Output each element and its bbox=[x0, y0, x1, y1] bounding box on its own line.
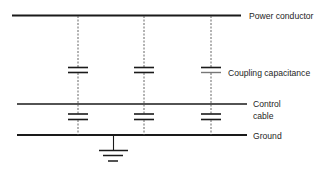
coupling-column-3 bbox=[201, 16, 221, 135]
coupling-diagram: Power conductor Coupling capacitance Con… bbox=[0, 0, 331, 171]
label-ground: Ground bbox=[253, 131, 282, 141]
label-control-cable-line2: cable bbox=[253, 111, 274, 121]
label-coupling-capacitance: Coupling capacitance bbox=[228, 68, 310, 78]
coupling-column-1 bbox=[68, 16, 88, 135]
label-control-cable-line1: Control bbox=[253, 99, 281, 109]
ground-symbol-icon bbox=[99, 135, 128, 161]
label-power-conductor: Power conductor bbox=[249, 11, 314, 21]
coupling-column-2 bbox=[134, 16, 154, 135]
